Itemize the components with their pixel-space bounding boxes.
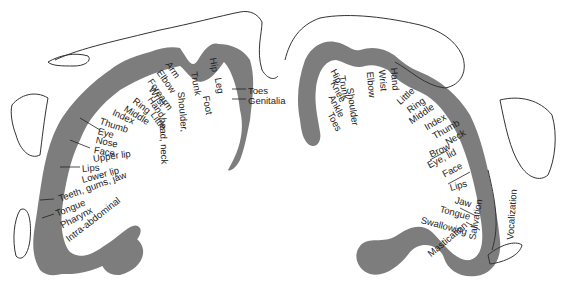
motor-face-figure	[500, 98, 555, 178]
sensory-tongue-figure	[14, 209, 31, 258]
sensory-squiggle	[100, 237, 143, 275]
motor-label-hand: Hand	[389, 67, 400, 90]
motor-label-elbow: Elbow	[365, 71, 377, 98]
sensory-label-leg: Leg	[213, 77, 225, 94]
homunculus-diagram: Toes Genitalia Hip Leg Foot Trunk Should…	[0, 0, 564, 281]
sensory-hand-figure	[48, 54, 89, 66]
sensory-label-shoulder: Shoulder,	[176, 91, 189, 132]
sensory-label-hip: Hip	[208, 57, 220, 73]
sensory-label-genitalia: Genitalia	[248, 96, 286, 106]
sensory-face-figure	[11, 94, 48, 156]
diagram-artwork	[0, 0, 564, 281]
sensory-label-foot: Foot	[201, 95, 214, 115]
motor-label-wrist: Wrist	[377, 69, 388, 91]
